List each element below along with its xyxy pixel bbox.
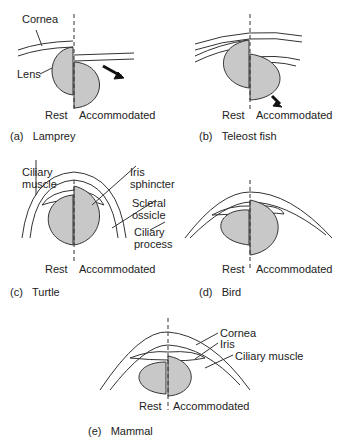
rest-label-a: Rest xyxy=(45,109,68,121)
rest-label-c: Rest xyxy=(45,263,68,275)
panel-b-teleost-drawing xyxy=(195,14,302,112)
label-scleral-ossicle-c: Scleralossicle xyxy=(132,197,166,221)
rest-label-e: Rest xyxy=(139,400,162,412)
panel-a-lamprey-drawing xyxy=(18,14,134,112)
caption-e: (e) Mammal xyxy=(88,425,153,437)
label-cornea-a: Cornea xyxy=(22,13,58,25)
diagram-canvas xyxy=(0,0,352,448)
label-ciliary-process-c: Ciliaryprocess xyxy=(134,226,173,250)
label-iris-e: Iris xyxy=(220,338,235,350)
label-ciliary-muscle-e: Ciliary muscle xyxy=(235,350,303,362)
caption-d: (d) Bird xyxy=(199,286,241,298)
label-iris-sphincter-c: Irissphincter xyxy=(130,166,175,190)
label-lens-a: Lens xyxy=(17,68,41,80)
caption-a: (a) Lamprey xyxy=(10,130,75,142)
lens-rest xyxy=(52,47,73,95)
accommodated-label-b: Accommodated xyxy=(256,109,332,121)
label-ciliary-muscle-c: Ciliarymuscle xyxy=(22,166,57,190)
lens-accommodated xyxy=(74,62,100,108)
accommodated-label-c: Accommodated xyxy=(79,263,155,275)
rest-label-b: Rest xyxy=(222,109,245,121)
accommodated-label-e: Accommodated xyxy=(173,400,249,412)
accommodated-label-d: Accommodated xyxy=(256,263,332,275)
caption-c: (c) Turtle xyxy=(10,286,60,298)
panel-d-bird-drawing xyxy=(185,180,332,268)
caption-b: (b) Teleost fish xyxy=(199,130,277,142)
accommodated-label-a: Accommodated xyxy=(79,109,155,121)
rest-label-d: Rest xyxy=(222,263,245,275)
